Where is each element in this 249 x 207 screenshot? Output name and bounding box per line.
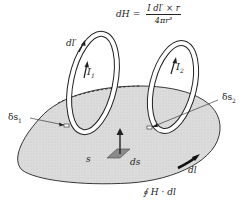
label-ds: ds — [130, 158, 140, 167]
label-line-integral: ∮ H · dl — [143, 188, 176, 197]
label-delta-s2-main: δs — [222, 92, 232, 102]
formula-denominator: 4πr³ — [155, 15, 172, 25]
label-surface-s: s — [86, 155, 91, 164]
label-delta-s1: δs1 — [8, 113, 22, 124]
label-dl: dl — [188, 166, 197, 175]
formula-lhs: dH — [116, 9, 130, 19]
label-delta-s2: δs2 — [222, 93, 236, 104]
label-delta-s2-sub: 2 — [232, 97, 236, 104]
label-dl-prime: dl′ — [66, 39, 77, 48]
label-delta-s1-sub: 1 — [18, 117, 22, 124]
formula-numerator: I dl′ × r — [146, 3, 181, 15]
diagram-canvas — [0, 0, 249, 207]
formula-equals: = — [133, 9, 141, 19]
pierce-point-2 — [147, 126, 152, 129]
label-current-1-sub: 1 — [91, 72, 95, 79]
biot-savart-formula: dH = I dl′ × r 4πr³ — [116, 3, 181, 25]
pierce-point-1 — [64, 124, 69, 127]
label-current-2: I2 — [176, 62, 184, 74]
label-current-2-sub: 2 — [180, 67, 184, 74]
label-delta-s1-main: δs — [8, 112, 18, 122]
label-current-1: I1 — [87, 67, 95, 79]
